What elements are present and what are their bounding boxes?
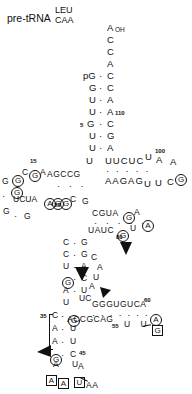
acceptor-pair-6-left: U [89, 131, 96, 141]
residue-number-25: 25 [54, 202, 61, 208]
var-loop-strand-top: GGGUGUCA [92, 300, 147, 309]
d-arm-bottom-left: UCUA [13, 195, 37, 204]
d-loop-a: A [40, 168, 46, 177]
acceptor-tail-c2: C [107, 47, 114, 57]
ac-stem-pair-2-left: C [63, 250, 69, 259]
acceptor-tail-a2: A [107, 59, 113, 69]
cleavage-arrow-icon [74, 266, 90, 282]
ac-stem-pair-5-left: A [63, 286, 69, 295]
var-loop-a-up: A [97, 263, 103, 272]
residue-number-15: 15 [30, 158, 37, 164]
cleavage-arrow-icon-4 [100, 287, 112, 299]
ac-stem-pair-11-right: C [70, 350, 76, 359]
acceptor-pair-7-bond: · [99, 143, 102, 153]
acceptor-tail-a1: A [107, 23, 113, 33]
page-title: pre-tRNA [7, 13, 51, 24]
var-loop-a-top: A [89, 282, 95, 291]
d-arm-top-strand: AGCCG [47, 170, 81, 179]
ac-stem-pair-1-bond: · [73, 238, 76, 248]
ac-loop-left-a: A [53, 360, 59, 369]
t-loop-circled-g: G [175, 169, 187, 186]
acceptor-pair-4-right: A [107, 107, 113, 117]
acceptor-pair-3-right: A [107, 95, 113, 105]
ac-loop-right-a: A [78, 362, 84, 371]
acceptor-pair-6-right: G [107, 131, 114, 141]
core-row-uauc: UAUC [88, 226, 114, 235]
d-arm-tail-g: G [82, 197, 89, 206]
acceptor-pair-5-right: C [107, 119, 114, 129]
acceptor-pair-5-left: G [87, 119, 94, 129]
t-loop-a2: A [170, 157, 176, 167]
acceptor-pair-3-left: U [89, 95, 96, 105]
t-loop-bottom-u2: U [155, 178, 162, 188]
acceptor-pair-2-bond: · [99, 83, 102, 93]
t-loop-bottom-u1: U [144, 179, 151, 189]
d-arm-bottom-c: C [70, 195, 76, 204]
acceptor-pair-1-right: C [107, 71, 114, 81]
ac-stem-pair-10-right: U [70, 337, 76, 346]
residue-number-110: 110 [115, 110, 125, 116]
acceptor-pair-4-left: U [89, 107, 96, 117]
residue-number-45: 45 [79, 350, 86, 356]
var-loop-boxed-g: G [152, 320, 163, 336]
core-tail-u: U [130, 224, 136, 233]
circled-residue: G [175, 174, 187, 186]
ac-loop-bottom-aa: AA [86, 381, 98, 390]
ac-stem-pair-9-bond: · [61, 324, 64, 334]
ac-stem-pair-8-bond: · [61, 311, 64, 321]
ac-stem-pair-2-right: G [81, 250, 88, 259]
acceptor-pair-3-bond: · [99, 95, 102, 105]
t-loop-u: U [145, 152, 152, 162]
acceptor-pair-2-left: G [89, 83, 96, 93]
acceptor-pair-5-bond: · [99, 119, 102, 129]
title-superscript-leu: LEU [55, 6, 73, 15]
residue-number-80: 80 [116, 234, 123, 240]
ac-stem-pair-10-bond: · [61, 337, 64, 347]
core-left-g3: G [24, 212, 31, 221]
bracket-top-tick [49, 314, 53, 315]
acceptor-pair-1-left: pG [83, 71, 96, 81]
ac-stem-pair-1-right: G [81, 238, 88, 247]
ac-stem-pair-9-right: U [70, 324, 76, 333]
acceptor-pair-7-right: A [107, 143, 113, 153]
acceptor-loop-u: U [86, 156, 93, 166]
acceptor-pair-7-left: U [89, 143, 96, 153]
residue-number-35: 35 [40, 313, 47, 319]
acceptor-pair-4-bond: · [99, 107, 102, 117]
ac-loop-boxed-a1: A [46, 370, 57, 386]
pre-trna-secondary-structure-diagram: pre-tRNA LEU CAA A OH C C A pG · C G · C… [0, 0, 192, 394]
residue-number-60: 60 [144, 297, 151, 303]
var-loop-u-top: U [93, 273, 99, 282]
cleavage-arrow-icon-2 [119, 241, 133, 256]
ac-stem-pair-3-left: U [63, 262, 69, 271]
var-loop-c-up: C [91, 253, 97, 262]
ac-loop-boxed-a2: A [58, 373, 69, 389]
boxed-residue: A [58, 378, 69, 389]
d-loop-c: C [22, 168, 28, 177]
cleavage-arrow-icon-3 [37, 345, 52, 358]
residue-number-5: 5 [80, 122, 83, 128]
acceptor-pair-1-bond: · [99, 71, 102, 81]
core-mid-a: A [134, 208, 140, 217]
t-loop-a1: A [156, 155, 162, 165]
core-left-g1: G [2, 177, 9, 186]
residue-number-55: 55 [112, 323, 119, 329]
var-loop-uc: UC [79, 294, 91, 303]
core-left-dot1: · [2, 191, 5, 201]
ac-stem-pair-1-left: C [63, 238, 69, 247]
boxed-residue: G [152, 325, 163, 336]
title-subscript-caa: CAA [55, 16, 74, 25]
three-prime-oh-label: OH [115, 27, 125, 34]
ac-stem-pair-11-bond: · [61, 350, 64, 360]
acceptor-pair-6-bond: · [99, 131, 102, 141]
t-arm-bottom-strand: AAGAG [105, 176, 144, 186]
core-left-dot2: · [14, 211, 17, 221]
t-loop-bottom-c: C [167, 177, 174, 187]
acceptor-pair-2-right: C [107, 83, 114, 93]
ac-stem-pair-5-bond: · [73, 286, 76, 296]
d-arm-pair-dots: · · · [57, 181, 87, 191]
ac-stem-pair-2-bond: · [73, 250, 76, 260]
acceptor-tail-c1: C [107, 35, 114, 45]
ac-stem-unpaired-u: U [63, 298, 69, 307]
boxed-residue: A [46, 375, 57, 386]
